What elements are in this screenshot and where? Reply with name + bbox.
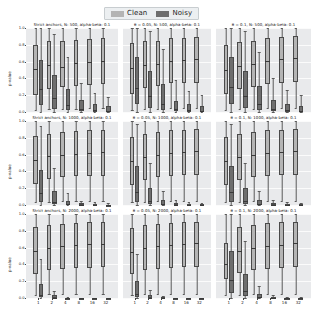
median-line bbox=[229, 192, 234, 193]
whisker-cap-lower bbox=[157, 109, 159, 110]
median-line bbox=[174, 205, 178, 206]
box-iqr bbox=[66, 89, 71, 110]
boxplot-noisy-4 bbox=[257, 214, 262, 298]
whisker-cap-upper bbox=[195, 121, 197, 122]
panel-title: θ = 0.1, N: 1000, alpha-beta: 0.1 bbox=[216, 115, 311, 120]
boxplot-clean-16 bbox=[87, 214, 92, 298]
whisker-cap-lower bbox=[230, 205, 233, 206]
boxplot-clean-16 bbox=[182, 28, 186, 112]
median-line bbox=[257, 297, 262, 298]
boxplot-noisy-8 bbox=[79, 121, 84, 205]
x-tick-label: 4 bbox=[255, 300, 258, 305]
box-iqr bbox=[293, 222, 298, 267]
boxplot-noisy-16 bbox=[93, 121, 98, 205]
boxplot-clean-8 bbox=[74, 28, 79, 112]
box-iqr bbox=[148, 71, 152, 108]
whisker-cap-upper bbox=[144, 28, 146, 29]
whisker-cap-upper bbox=[294, 121, 297, 122]
boxplot-clean-4 bbox=[156, 121, 160, 205]
boxplot-noisy-8 bbox=[174, 121, 178, 205]
whisker-cap-lower bbox=[144, 202, 146, 203]
whisker-cap-upper bbox=[252, 28, 255, 29]
whisker-cap-upper bbox=[94, 93, 97, 94]
whisker-cap-upper bbox=[107, 203, 110, 204]
boxplot-noisy-32 bbox=[106, 28, 111, 112]
boxplot-noisy-32 bbox=[299, 214, 304, 298]
median-line bbox=[271, 205, 276, 206]
whisker-cap-upper bbox=[157, 214, 159, 215]
x-tick-label: 32 bbox=[296, 300, 301, 305]
whisker-cap-upper bbox=[107, 97, 110, 98]
median-line bbox=[87, 153, 92, 154]
boxplot-noisy-16 bbox=[285, 214, 290, 298]
whisker-cap-upper bbox=[88, 214, 91, 215]
panel-title: Strict anchors, N: 2000, alpha-beta: 0.1 bbox=[26, 208, 118, 213]
whisker-cap-upper bbox=[144, 214, 146, 215]
whisker-cap-lower bbox=[48, 294, 51, 295]
x-tick-mark bbox=[52, 298, 53, 300]
boxplot-clean-2 bbox=[143, 28, 147, 112]
median-line bbox=[200, 111, 204, 112]
whisker-cap-upper bbox=[88, 28, 91, 29]
box-iqr bbox=[33, 45, 38, 95]
y-tick-mark bbox=[25, 95, 27, 96]
whisker-cap-lower bbox=[239, 202, 242, 203]
whisker-cap-lower bbox=[48, 202, 51, 203]
median-line bbox=[237, 157, 242, 158]
panel-title: θ = 0.05, N: 1000, alpha-beta: 0.1 bbox=[123, 115, 211, 120]
panel-r0-c1: θ = 0.05, N: 500, alpha-beta: 0.1 bbox=[123, 22, 211, 112]
y-axis-label: p-value bbox=[7, 257, 12, 272]
panel-r2-c1: θ = 0.05, N: 2000, alpha-beta: 0.1124816… bbox=[123, 208, 211, 298]
whisker-cap-lower bbox=[53, 112, 56, 113]
whisker-cap-upper bbox=[272, 295, 275, 296]
x-tick-mark bbox=[148, 298, 149, 300]
plot-area bbox=[216, 121, 311, 205]
box-iqr bbox=[161, 84, 165, 110]
median-line bbox=[169, 245, 173, 246]
boxplot-noisy-2 bbox=[52, 121, 57, 205]
whisker-cap-upper bbox=[170, 121, 172, 122]
boxplot-noisy-1 bbox=[229, 121, 234, 205]
box-iqr bbox=[87, 222, 92, 267]
boxplot-clean-16 bbox=[279, 28, 284, 112]
median-line bbox=[265, 61, 270, 62]
boxplot-noisy-2 bbox=[148, 121, 152, 205]
median-line bbox=[130, 161, 134, 162]
boxplot-clean-8 bbox=[74, 214, 79, 298]
boxplot-clean-16 bbox=[182, 121, 186, 205]
whisker-cap-upper bbox=[244, 163, 247, 164]
whisker-cap-lower bbox=[294, 108, 297, 109]
whisker-cap-lower bbox=[258, 112, 261, 113]
box-iqr bbox=[243, 71, 248, 108]
whisker-cap-lower bbox=[34, 202, 37, 203]
median-line bbox=[187, 205, 191, 206]
median-line bbox=[135, 294, 139, 295]
whisker-cap-lower bbox=[195, 294, 197, 295]
whisker-cap-lower bbox=[239, 109, 242, 110]
whisker-cap-lower bbox=[244, 298, 247, 299]
boxplot-clean-8 bbox=[169, 28, 173, 112]
median-line bbox=[47, 248, 52, 249]
median-line bbox=[293, 151, 298, 152]
y-tick-mark bbox=[25, 264, 27, 265]
boxplot-clean-32 bbox=[101, 214, 106, 298]
median-line bbox=[243, 96, 248, 97]
whisker-cap-upper bbox=[75, 121, 78, 122]
boxplot-clean-32 bbox=[194, 121, 198, 205]
whisker-cap-lower bbox=[131, 295, 133, 296]
median-line bbox=[237, 66, 242, 67]
median-line bbox=[293, 243, 298, 244]
whisker-cap-upper bbox=[75, 214, 78, 215]
median-line bbox=[52, 98, 57, 99]
boxplot-noisy-4 bbox=[257, 121, 262, 205]
boxplot-clean-32 bbox=[101, 121, 106, 205]
whisker-cap-lower bbox=[88, 201, 91, 202]
whisker-cap-lower bbox=[75, 109, 78, 110]
x-tick-mark bbox=[65, 298, 66, 300]
boxplot-clean-2 bbox=[237, 214, 242, 298]
whisker-cap-upper bbox=[280, 28, 283, 29]
whisker-cap-lower bbox=[252, 294, 255, 295]
whisker-cap-lower bbox=[67, 205, 70, 206]
median-line bbox=[143, 65, 147, 66]
boxplot-noisy-2 bbox=[148, 214, 152, 298]
